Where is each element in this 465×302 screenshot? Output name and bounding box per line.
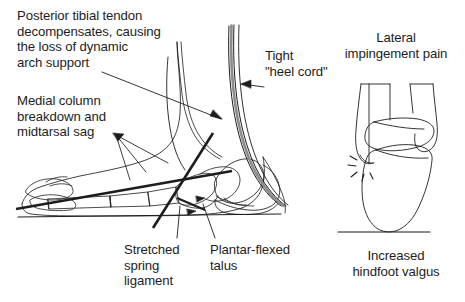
label-lateral-impingement-pain: Lateral impingement pain bbox=[332, 30, 460, 61]
label-increased-hindfoot-valgus: Increased hindfoot valgus bbox=[332, 248, 460, 279]
label-plantar-flexed-talus: Plantar-flexed talus bbox=[210, 242, 306, 273]
fibula-posterior-view bbox=[410, 84, 437, 152]
tibia-posterior-view bbox=[356, 84, 390, 164]
calcaneus-posterior-view bbox=[362, 145, 432, 232]
leader-spring-ligament bbox=[177, 206, 180, 238]
label-medial-column-breakdown: Medial column breakdown and midtarsal sa… bbox=[17, 93, 187, 140]
leader-plantar-flexed-talus bbox=[203, 204, 215, 238]
label-posterior-tibial-tendon: Posterior tibial tendon decompensates, c… bbox=[17, 8, 227, 70]
leader-heel-cord bbox=[241, 80, 264, 88]
metatarsal-bones bbox=[48, 187, 179, 209]
posterior-tibial-tendon-line bbox=[16, 171, 232, 209]
label-stretched-spring-ligament: Stretched spring ligament bbox=[124, 242, 202, 289]
flatfoot-diagram: Posterior tibial tendon decompensates, c… bbox=[0, 0, 465, 302]
leader-midtarsal-sag bbox=[113, 133, 168, 180]
talus-posterior-view bbox=[365, 118, 434, 151]
medial-malleolus bbox=[360, 155, 374, 163]
